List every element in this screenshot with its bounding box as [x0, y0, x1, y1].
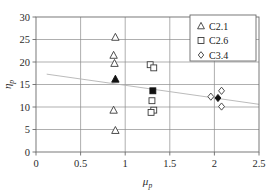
x-tick-label: 1 [123, 158, 128, 169]
data-point-c2-1 [111, 59, 118, 66]
legend-label-C2-6: C2.6 [209, 35, 228, 46]
legend-label-C3-4: C3.4 [209, 50, 228, 61]
data-point-c2-1 [112, 127, 119, 134]
data-point-c2-6 [148, 109, 154, 115]
y-axis-title: ηp [1, 80, 16, 89]
y-tick-label: 30 [20, 12, 31, 23]
data-point-c3-4 [219, 103, 225, 110]
x-tick-label: 2 [212, 158, 217, 169]
data-point-c2-1 [112, 33, 119, 40]
data-point-c2-1-mean [112, 75, 119, 82]
y-axis-ticks: 051015202530 [20, 12, 37, 158]
x-tick-label: 2.5 [252, 158, 265, 169]
y-tick-label: 5 [25, 124, 30, 135]
x-axis-ticks: 00.511.522.5 [33, 152, 265, 169]
x-axis-title: μp [142, 175, 153, 190]
data-point-c2-6-mean [150, 88, 156, 94]
x-tick-label: 1.5 [163, 158, 176, 169]
x-tick-label: 0.5 [74, 158, 87, 169]
y-tick-label: 10 [20, 102, 31, 113]
legend: C2.1C2.6C3.4 [190, 15, 256, 61]
scatter-chart: 00.511.522.5 051015202530 C2.1C2.6C3.4 μ… [0, 0, 267, 190]
data-point-c2-1 [110, 51, 117, 58]
y-tick-label: 25 [20, 34, 31, 45]
data-point-c3-4 [208, 93, 214, 100]
legend-marker-square [198, 38, 204, 44]
data-point-c3-4-mean [215, 94, 221, 101]
legend-label-C2-1: C2.1 [209, 21, 228, 32]
y-tick-label: 20 [20, 57, 31, 68]
axis-titles: μpηp [1, 80, 152, 190]
data-point-c3-4 [219, 87, 225, 94]
y-tick-label: 0 [25, 147, 30, 158]
data-point-c2-6 [151, 65, 157, 71]
y-tick-label: 15 [20, 79, 31, 90]
plot-area: 00.511.522.5 051015202530 C2.1C2.6C3.4 μ… [0, 0, 267, 190]
x-tick-label: 0 [33, 158, 38, 169]
data-point-c2-6 [149, 98, 155, 104]
